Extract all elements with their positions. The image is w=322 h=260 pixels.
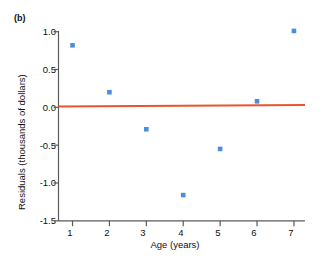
data-point — [107, 90, 112, 95]
data-point — [144, 127, 149, 132]
data-point — [181, 193, 186, 198]
data-point — [218, 147, 223, 152]
figure-panel-b: (b) Residuals (thousands of dollars) Age… — [0, 0, 322, 260]
data-point-markers — [70, 29, 296, 198]
y-tick-marks — [54, 32, 59, 221]
data-point — [70, 43, 75, 48]
plot-canvas — [0, 0, 322, 260]
x-tick-marks — [73, 221, 294, 226]
data-point — [255, 99, 260, 104]
zero-reference-line — [59, 105, 306, 107]
data-point — [292, 29, 297, 34]
